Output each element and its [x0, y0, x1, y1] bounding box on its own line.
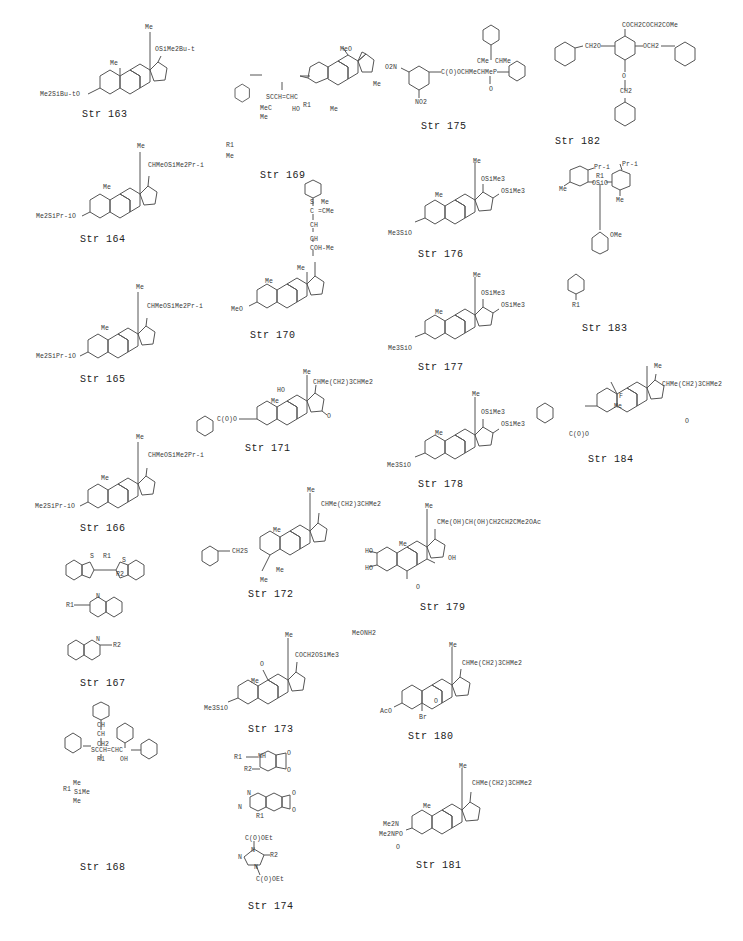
steroid-skeleton-icon [30, 430, 200, 530]
structure-178: Me OSiMe3 OSiMe3 Me Me3SiO Str 178 [385, 385, 550, 495]
structure-caption: Str 184 [588, 454, 634, 465]
methyl-label: Me [297, 265, 305, 272]
nitro-label: NO2 [415, 99, 427, 106]
structure-167: S R1 S R2 R1 N N R2 Str 167 [60, 545, 170, 695]
ester-label: C(O)OEt [245, 835, 273, 842]
structure-173: Me COCH2OSiMe3 O Me Me3SiO MeONH2 Str 17… [200, 620, 390, 745]
hydroxyl-label: HO [292, 106, 300, 113]
phosphoryl-oxygen-label: O [396, 844, 400, 851]
amine-label: NH [258, 753, 266, 760]
structure-177: Me OSiMe3 OSiMe3 Me Me3SiO Str 177 [385, 265, 550, 375]
substituent-label: Me3SiO [204, 705, 228, 712]
hydroxyl-label: HO [365, 548, 373, 555]
ketone-label: O [416, 584, 420, 591]
sulfur-label: S [122, 557, 126, 564]
steroid-silyl-ether-icon [385, 385, 550, 485]
structure-caption: Str 175 [421, 121, 467, 132]
r-group-label: R1 [103, 553, 111, 560]
silyloxy-label: OSiMe3 [501, 421, 525, 428]
substituent-label: MeC [260, 105, 272, 112]
chain-label: CH [310, 222, 318, 229]
structure-caption: Str 165 [80, 374, 126, 385]
structure-caption: Str 170 [250, 330, 296, 341]
silyloxy-label: OSiMe3 [481, 290, 505, 297]
chain-label: SCCH=CHC [91, 747, 123, 754]
methyl-label: Me [73, 780, 81, 787]
hydroxyl-label: HO [365, 565, 373, 572]
r-group-label: R1 [63, 786, 71, 793]
oxygen-label: O [287, 750, 291, 757]
oxygen-label: O [287, 767, 291, 774]
r-group-label: R2 [270, 852, 278, 859]
menthyl-silane-icon [560, 160, 740, 320]
substituent-label: Me2SiPr-iO [36, 213, 76, 220]
methyl-label: Me [265, 278, 273, 285]
epoxy-steroid-icon [380, 635, 580, 735]
methyl-label: Me [449, 642, 457, 649]
methyl-label: Me [435, 430, 443, 437]
methoxy-label: OMe [610, 232, 622, 239]
r-group-label: R1 [97, 756, 105, 763]
sulfur-label: S [90, 553, 94, 560]
acyl-chain-label: COCH2COCH2COMe [622, 22, 678, 29]
tribenzyloxy-phenyl-icon [555, 20, 735, 135]
structure-caption: Str 167 [80, 678, 126, 689]
chain-label: C =CMe [310, 208, 334, 215]
methyl-label: Me [260, 577, 268, 584]
methyl-label: Me [137, 143, 145, 150]
methyl-label: Me [473, 158, 481, 165]
methyl-label: Me [276, 567, 284, 574]
ketone-label: O [260, 661, 264, 668]
ester-label: C(O)O [217, 416, 237, 423]
dimethylamino-label: Me2N [383, 821, 399, 828]
methyl-label: Me [373, 81, 381, 88]
structure-caption: Str 182 [555, 136, 601, 147]
substituent-label: Me3SiO [388, 345, 412, 352]
oxygen-label: O [292, 790, 296, 797]
methoxy-label: MeO [231, 306, 243, 313]
methyl-label: Me [307, 487, 315, 494]
methyl-label: Me [136, 434, 144, 441]
phosphoramide-label: Me2NPO [379, 831, 403, 838]
structure-166: Me CHMeOSiMe2Pr-i Me Me2SiPr-iO Str 166 [30, 430, 210, 540]
structure-184: Me CHMe(CH2)3CHMe2 F Me O C(O)O Str 184 [535, 350, 740, 465]
silyloxy-label: OSiMe3 [481, 176, 505, 183]
methyl-label: Me [330, 106, 338, 113]
steroid-skeleton-icon [30, 280, 200, 380]
methyl-label: Me [145, 24, 153, 31]
nitrogen-label: N [96, 636, 100, 643]
structure-caption: Str 177 [418, 362, 464, 373]
substituent-label: CHMeOSiMe2Pr-i [148, 162, 204, 169]
methyl-label: Me [260, 114, 268, 121]
structure-174: R1 NH R2 O O N N R1 O O C(O)OEt N N N R2… [230, 745, 370, 920]
chain-label: C(O)OCHMeCHMeP [441, 69, 497, 76]
ester-label: C(O)OEt [256, 876, 284, 883]
structure-175: O2N NO2 C(O)OCHMeCHMeP CMe CHMe O Str 17… [385, 20, 560, 135]
structure-caption: Str 173 [248, 724, 294, 735]
methyl-label: Me [136, 284, 144, 291]
methyl-label: Me [616, 197, 624, 204]
chain-label: COH-Me [310, 245, 334, 252]
nitrogen-label: N [251, 847, 255, 854]
r-group-label: R1 [66, 602, 74, 609]
methyl-label: Me [614, 403, 622, 410]
ester-label: C(O)O [569, 431, 589, 438]
fluorine-label: F [619, 393, 623, 400]
structure-caption: Str 164 [80, 234, 126, 245]
substituent-label: Me3SiO [387, 462, 411, 469]
structure-182: COCH2COCH2COMe CH2O OCH2 O CH2 Str 182 [555, 20, 735, 150]
substituent-label: CHMe(CH2)3CHMe2 [462, 660, 522, 667]
nitro-label: O2N [385, 64, 397, 71]
structure-caption: Str 176 [418, 249, 464, 260]
methyl-label: Me [285, 632, 293, 639]
r-group-label: R2 [113, 642, 121, 649]
chain-label: CH [97, 722, 105, 729]
structure-caption: Str 172 [248, 589, 294, 600]
isopropyl-label: Pr-i [622, 161, 638, 168]
substituent-label: CHMeOSiMe2Pr-i [147, 303, 203, 310]
methoxy-label: MeO [340, 46, 352, 53]
acetoxy-label: AcO [380, 708, 392, 715]
silicon-ether-label: OSiO [592, 180, 608, 187]
nitrogen-label: N [238, 854, 242, 861]
structure-caption: Str 183 [582, 323, 628, 334]
